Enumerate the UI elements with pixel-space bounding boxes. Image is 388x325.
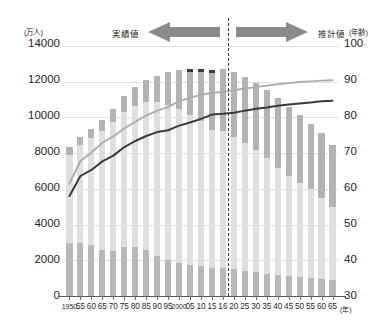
right-tick-70: 70 bbox=[344, 146, 357, 158]
x-tick bbox=[91, 296, 92, 300]
x-axis-unit: (年) bbox=[340, 304, 352, 314]
x-tick bbox=[245, 296, 246, 300]
x-tick bbox=[234, 296, 235, 300]
x-tick bbox=[256, 296, 257, 300]
actual-label: 実績値 bbox=[112, 27, 139, 39]
left-tick-4000: 4000 bbox=[34, 218, 60, 230]
x-tick bbox=[278, 296, 279, 300]
left-tick-2000: 2000 bbox=[34, 254, 60, 266]
projection-divider bbox=[228, 18, 229, 296]
x-tick bbox=[113, 296, 114, 300]
left-tick-10000: 10000 bbox=[28, 110, 60, 122]
female-life-expectancy-line bbox=[69, 80, 332, 183]
life-expectancy-lines bbox=[64, 46, 338, 296]
right-tick-90: 90 bbox=[344, 74, 357, 86]
right-tick-40: 40 bbox=[344, 254, 357, 266]
right-tick-100: 100 bbox=[344, 38, 363, 50]
x-tick bbox=[124, 296, 125, 300]
x-axis-baseline bbox=[58, 296, 346, 297]
male-life-expectancy-line bbox=[69, 101, 332, 196]
x-tick bbox=[267, 296, 268, 300]
x-tick bbox=[322, 296, 323, 300]
x-tick bbox=[289, 296, 290, 300]
x-tick bbox=[69, 296, 70, 300]
x-tick bbox=[212, 296, 213, 300]
right-axis: 100 90 80 70 60 50 40 30 bbox=[344, 0, 388, 325]
x-tick bbox=[333, 296, 334, 300]
left-tick-14000: 14000 bbox=[28, 38, 60, 50]
x-tick bbox=[311, 296, 312, 300]
x-tick bbox=[223, 296, 224, 300]
projection-label: 推計値 bbox=[318, 27, 345, 39]
x-tick bbox=[135, 296, 136, 300]
x-tick bbox=[190, 296, 191, 300]
left-tick-12000: 12000 bbox=[28, 74, 60, 86]
right-tick-80: 80 bbox=[344, 110, 357, 122]
left-axis: 14000 12000 10000 8000 6000 4000 2000 0 bbox=[0, 0, 60, 325]
left-tick-6000: 6000 bbox=[34, 182, 60, 194]
x-tick bbox=[179, 296, 180, 300]
x-tick bbox=[157, 296, 158, 300]
left-tick-8000: 8000 bbox=[34, 146, 60, 158]
arrow-right-icon bbox=[234, 22, 314, 42]
x-tick bbox=[168, 296, 169, 300]
x-tick bbox=[146, 296, 147, 300]
arrow-left-icon bbox=[142, 22, 222, 42]
x-tick bbox=[80, 296, 81, 300]
x-tick bbox=[300, 296, 301, 300]
right-tick-50: 50 bbox=[344, 218, 357, 230]
x-tick bbox=[102, 296, 103, 300]
x-tick bbox=[201, 296, 202, 300]
right-tick-60: 60 bbox=[344, 182, 357, 194]
chart-root: (万人) (年齢) 14000 12000 10000 8000 6000 40… bbox=[0, 0, 388, 325]
